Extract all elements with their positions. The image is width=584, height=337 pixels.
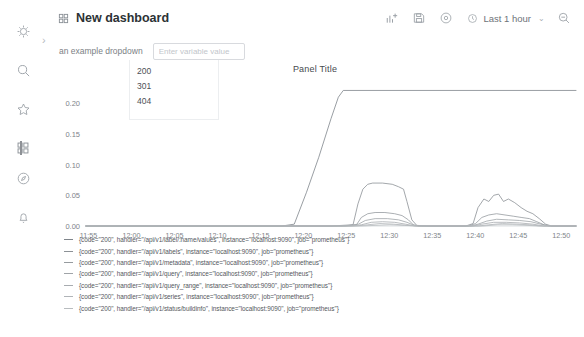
legend-item[interactable]: {code="200", handler="/api/v1/label/:nam… xyxy=(64,234,584,245)
chart-legend: {code="200", handler="/api/v1/label/:nam… xyxy=(64,234,584,314)
legend-label: {code="200", handler="/api/v1/series", i… xyxy=(79,293,314,300)
dropdown-option[interactable]: 200 xyxy=(130,63,218,78)
save-dashboard-icon[interactable] xyxy=(411,10,427,26)
time-series-chart: 0.000.050.100.150.2011:5512:0012:0512:10… xyxy=(46,80,584,248)
grafana-logo-icon[interactable] xyxy=(8,16,38,46)
compass-icon[interactable] xyxy=(8,163,38,193)
legend-label: {code="200", handler="/api/v1/status/bui… xyxy=(79,305,339,312)
dashboard-grid-icon xyxy=(58,13,69,24)
legend-color-swatch xyxy=(64,262,73,263)
legend-item[interactable]: {code="200", handler="/api/v1/labels", i… xyxy=(64,245,584,256)
dashboard-title-group[interactable]: New dashboard xyxy=(58,11,169,25)
search-icon[interactable] xyxy=(8,55,38,85)
sidebar-item-dashboards[interactable] xyxy=(8,133,38,163)
zoom-out-icon[interactable] xyxy=(556,10,572,26)
time-range-picker[interactable]: Last 1 hour ⌄ xyxy=(467,13,545,24)
legend-label: {code="200", handler="/api/v1/metadata",… xyxy=(79,259,323,266)
panel-title: Panel Title xyxy=(46,64,584,74)
active-indicator xyxy=(20,141,22,155)
legend-color-swatch xyxy=(64,296,73,297)
legend-label: {code="200", handler="/api/v1/query", in… xyxy=(79,270,313,277)
dashboards-grid-icon xyxy=(16,141,30,155)
legend-color-swatch xyxy=(64,273,73,274)
star-icon[interactable] xyxy=(8,94,38,124)
legend-color-swatch xyxy=(64,308,73,309)
grafana-dashboard-app: › New dashboard xyxy=(0,0,584,337)
variable-label: an example dropdown xyxy=(59,46,143,56)
bell-icon[interactable] xyxy=(8,202,38,232)
legend-item[interactable]: {code="200", handler="/api/v1/series", i… xyxy=(64,291,584,302)
chevron-down-icon: ⌄ xyxy=(538,14,545,23)
dropdown-option[interactable]: 404 xyxy=(130,93,218,108)
add-panel-icon[interactable] xyxy=(384,10,400,26)
legend-label: {code="200", handler="/api/v1/label/:nam… xyxy=(79,236,349,243)
legend-item[interactable]: {code="200", handler="/api/v1/query", in… xyxy=(64,268,584,279)
left-sidebar xyxy=(0,0,46,337)
legend-label: {code="200", handler="/api/v1/query_rang… xyxy=(79,282,332,289)
top-toolbar: New dashboard xyxy=(46,0,584,36)
svg-text:0.05: 0.05 xyxy=(65,191,80,200)
legend-color-swatch xyxy=(64,285,73,286)
gear-icon[interactable] xyxy=(438,10,454,26)
variable-value-input[interactable] xyxy=(153,43,245,60)
toolbar-actions: Last 1 hour ⌄ xyxy=(384,10,584,26)
legend-item[interactable]: {code="200", handler="/api/v1/query_rang… xyxy=(64,280,584,291)
legend-item[interactable]: {code="200", handler="/api/v1/status/bui… xyxy=(64,302,584,313)
svg-text:0.00: 0.00 xyxy=(65,222,80,231)
svg-text:0.20: 0.20 xyxy=(65,99,80,108)
legend-color-swatch xyxy=(64,239,73,240)
legend-item[interactable]: {code="200", handler="/api/v1/metadata",… xyxy=(64,257,584,268)
clock-icon xyxy=(467,13,478,24)
legend-color-swatch xyxy=(64,251,73,252)
graph-panel: Panel Title 0.000.050.100.150.2011:5512:… xyxy=(46,58,584,318)
plot-area[interactable]: 0.000.050.100.150.2011:5512:0012:0512:10… xyxy=(46,80,584,248)
dropdown-option[interactable]: 301 xyxy=(130,78,218,93)
page-title: New dashboard xyxy=(76,11,169,25)
variable-options-dropdown: 200 301 404 xyxy=(129,60,219,120)
legend-label: {code="200", handler="/api/v1/labels", i… xyxy=(79,248,313,255)
svg-text:0.10: 0.10 xyxy=(65,161,80,170)
svg-text:0.15: 0.15 xyxy=(65,130,80,139)
time-range-label: Last 1 hour xyxy=(483,13,531,24)
